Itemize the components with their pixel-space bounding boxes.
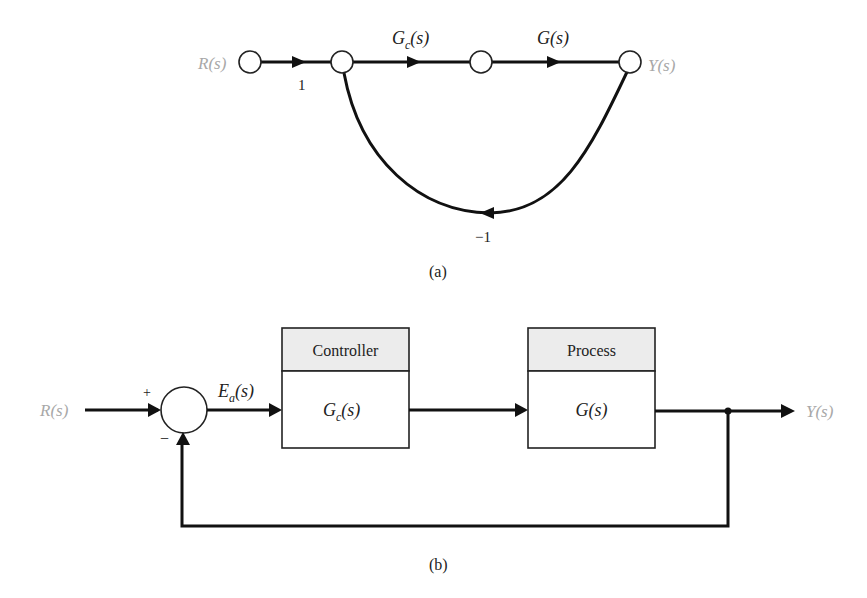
controller-block: Controller Gc(s) <box>282 328 409 448</box>
summing-junction <box>161 387 207 433</box>
error-signal-label: Ea(s) <box>217 381 254 405</box>
controller-header: Controller <box>313 342 379 359</box>
block-diagram: R(s) + − Ea(s) Controller Gc(s) Process … <box>39 328 834 574</box>
caption-a: (a) <box>429 263 447 281</box>
output-label: Y(s) <box>648 56 676 75</box>
process-gain-label: G(s) <box>537 28 569 49</box>
feedback-branch <box>344 72 627 213</box>
input-label: R(s) <box>197 54 227 73</box>
input-label-b: R(s) <box>39 401 69 420</box>
block-diagram-figure: R(s) Y(s) 1 Gc(s) G(s) −1 (a) R(s) + − E… <box>0 0 867 598</box>
caption-b: (b) <box>429 556 448 574</box>
node-input <box>239 51 261 73</box>
arrow-icon <box>515 403 528 417</box>
arrow-icon <box>292 56 306 68</box>
arrow-icon <box>176 432 190 445</box>
arrow-icon <box>148 403 161 417</box>
feedback-gain-label: −1 <box>475 229 491 245</box>
minus-sign: − <box>160 430 169 447</box>
output-label-b: Y(s) <box>806 402 834 421</box>
gain-one-label: 1 <box>298 77 306 93</box>
node-error <box>331 51 353 73</box>
arrow-icon <box>407 56 421 68</box>
arrow-icon <box>480 207 494 219</box>
node-intermediate <box>470 51 492 73</box>
process-transfer-function: G(s) <box>576 400 608 421</box>
plus-sign: + <box>143 385 151 400</box>
arrow-icon <box>781 404 795 418</box>
process-header: Process <box>567 342 616 359</box>
process-block: Process G(s) <box>528 328 655 448</box>
arrow-icon <box>547 56 561 68</box>
node-output <box>619 51 641 73</box>
arrow-icon <box>269 403 282 417</box>
signal-flow-graph: R(s) Y(s) 1 Gc(s) G(s) −1 (a) <box>197 28 676 281</box>
controller-gain-label: Gc(s) <box>392 28 429 52</box>
